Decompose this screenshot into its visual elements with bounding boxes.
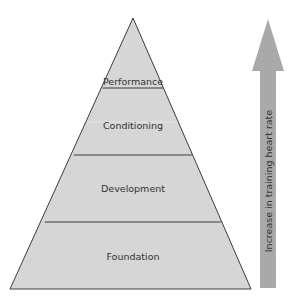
arrow-label: Increase in training heart rate	[263, 110, 274, 253]
level-label-foundation: Foundation	[106, 251, 159, 262]
level-label-performance: Performance	[103, 76, 163, 87]
level-label-development: Development	[101, 183, 165, 194]
level-label-conditioning: Conditioning	[103, 120, 163, 131]
pyramid-shape	[10, 18, 251, 289]
training-pyramid-diagram: Performance Conditioning Development Fou…	[0, 0, 297, 301]
